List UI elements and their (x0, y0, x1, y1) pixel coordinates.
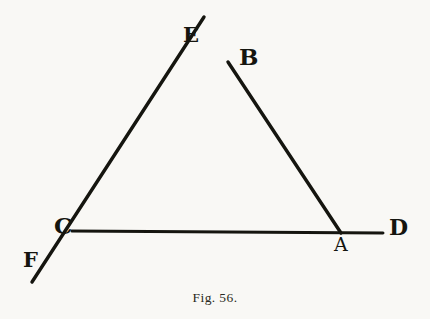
paper-background (0, 0, 430, 319)
geometry-diagram-canvas (0, 0, 430, 319)
vertex-label-A: A (334, 235, 348, 254)
vertex-label-D: D (389, 216, 408, 238)
vertex-label-B: B (239, 45, 258, 68)
vertex-label-E: E (183, 24, 199, 45)
figure-caption: Fig. 56. (0, 290, 430, 306)
figure-container: E B C F A D Fig. 56. (0, 0, 430, 319)
vertex-label-F: F (23, 249, 38, 270)
vertex-label-C: C (54, 214, 72, 237)
